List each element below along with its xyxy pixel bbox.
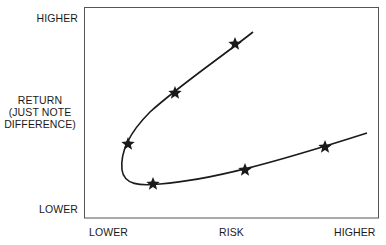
x-tick-lower: LOWER [89, 226, 128, 238]
star-icon [121, 137, 134, 150]
star-icon [238, 163, 251, 176]
y-tick-higher: HIGHER [2, 12, 78, 24]
x-axis-title: RISK [219, 226, 244, 238]
star-markers [121, 37, 331, 190]
y-tick-lower: LOWER [2, 203, 78, 215]
star-icon [228, 37, 241, 50]
star-icon [318, 140, 331, 153]
frontier-curve [122, 32, 367, 185]
y-title-line-3: DIFFERENCE) [2, 118, 78, 130]
star-icon [146, 177, 159, 190]
plot-frame [85, 8, 379, 219]
y-title-line-2: (JUST NOTE [2, 106, 78, 118]
y-axis-title: RETURN (JUST NOTE DIFFERENCE) [2, 94, 78, 130]
x-tick-higher: HIGHER [334, 226, 375, 238]
y-title-line-1: RETURN [2, 94, 78, 106]
